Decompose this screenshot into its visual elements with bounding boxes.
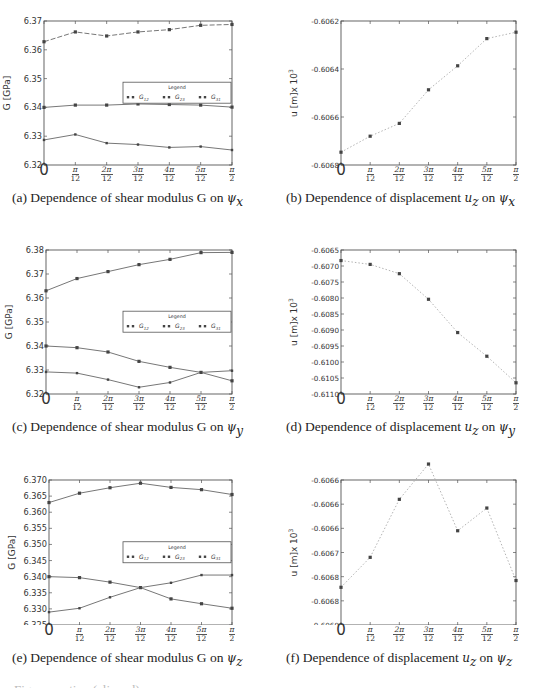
y-tick-label: -0.6067	[311, 549, 339, 558]
clipped-figure-caption: Figure caption (clipped)	[0, 683, 544, 688]
data-point	[168, 258, 171, 261]
y-tick-label: -0.6075	[311, 278, 339, 287]
x-tick-label: 3π12	[417, 395, 441, 412]
y-tick-label: -0.6062	[311, 17, 339, 26]
data-point	[485, 355, 488, 358]
y-tick-label: -0.6068	[311, 597, 339, 606]
x-tick-label: π2	[504, 166, 528, 183]
caption-b: (b) Dependence of displacement uz on ψx	[286, 190, 515, 209]
data-point	[106, 350, 109, 353]
y-axis-label: u [m]x 103	[287, 298, 299, 346]
data-point	[138, 386, 140, 388]
x-tick-label: π12	[358, 395, 382, 412]
caption-c: (c) Dependence of shear modulus G on ψy	[12, 419, 243, 438]
data-point	[339, 259, 342, 262]
data-point	[74, 133, 76, 135]
x-tick-label: 4π12	[446, 395, 470, 412]
data-point	[398, 272, 401, 275]
legend: LegendG12G23G31	[123, 542, 231, 563]
data-point	[514, 381, 517, 384]
chart-c: 6.326.336.346.356.366.376.38G [GPa]Legen…	[0, 220, 272, 400]
data-point	[75, 277, 78, 280]
psi-symbol: ψ	[227, 191, 236, 205]
x-tick-label: 4π12	[446, 166, 470, 183]
data-point	[427, 462, 430, 465]
y-tick-label: 6.355	[24, 523, 47, 533]
data-point	[199, 145, 201, 147]
data-point	[107, 378, 109, 380]
data-point	[108, 486, 111, 489]
data-point	[44, 289, 47, 292]
legend: LegendG12G23G31	[123, 311, 231, 332]
y-axis-label: G [GPa]	[2, 76, 12, 110]
y-tick-label: -0.6066	[311, 113, 339, 122]
x-tick-label: π12	[358, 626, 382, 643]
y-tick-label: -0.6066	[311, 524, 339, 533]
plot-area	[341, 21, 516, 165]
x-tick-label: 2π12	[387, 166, 411, 183]
data-point	[42, 40, 45, 43]
u-symbol: u	[462, 651, 470, 665]
data-point	[169, 381, 171, 383]
data-point	[108, 581, 111, 584]
x-tick-label: 2π12	[387, 626, 411, 643]
caption-a: (a) Dependence of shear modulus G on ψx	[12, 190, 243, 209]
data-point	[427, 88, 430, 91]
chart-b: -0.6068-0.6066-0.6064-0.6062u [m]x 103	[272, 0, 544, 180]
x-tick-label: 3π12	[417, 626, 441, 643]
psi-symbol: ψ	[499, 191, 508, 205]
caption-e-text: (e) Dependence of shear modulus G on	[12, 650, 227, 665]
y-tick-label: 6.35	[24, 74, 42, 84]
psi-symbol: ψ	[227, 420, 236, 434]
psi-sub: x	[236, 195, 243, 209]
data-point	[200, 488, 203, 491]
data-point	[137, 143, 139, 145]
data-point	[369, 135, 372, 138]
y-tick-label: 6.37	[26, 269, 44, 279]
y-tick-label: 6.37	[24, 16, 42, 26]
chart-c-svg: 6.326.336.346.356.366.376.38G [GPa]Legen…	[0, 220, 272, 400]
data-point	[514, 579, 517, 582]
data-point	[200, 371, 202, 373]
y-tick-label: -0.6070	[311, 262, 339, 271]
caption-e: (e) Dependence of shear modulus G on ψz	[12, 650, 243, 669]
chart-f-svg: -0.6069-0.6068-0.6068-0.6067-0.6066-0.60…	[272, 440, 544, 625]
y-tick-label: -0.6068	[311, 573, 339, 582]
caption-f-text: (f) Dependence of displacement	[286, 650, 462, 665]
caption-b-mid: on	[478, 190, 498, 205]
data-point	[485, 37, 488, 40]
data-point	[339, 586, 342, 589]
y-tick-label: 6.365	[24, 491, 47, 501]
y-axis-label: u [m]x 103	[287, 528, 299, 576]
y-tick-label: 6.350	[24, 539, 47, 549]
y-tick-label: -0.6105	[311, 374, 339, 383]
data-point	[44, 344, 47, 347]
caption-c-text: (c) Dependence of shear modulus G on	[12, 419, 227, 434]
y-axis-label: u [m]x 103	[287, 69, 299, 117]
x-tick-label: 2π12	[387, 395, 411, 412]
y-axis-label: G [GPa]	[7, 535, 17, 569]
y-tick-label: 6.360	[24, 507, 47, 517]
caption-b-text: (b) Dependence of displacement	[286, 190, 464, 205]
data-point	[136, 30, 139, 33]
y-tick-label: -0.6085	[311, 310, 339, 319]
psi-sub: y	[236, 424, 243, 438]
y-tick-label: -0.6064	[311, 65, 339, 74]
y-tick-label: -0.6066	[311, 476, 339, 485]
xticks-f: 0π122π123π124π125π12π2	[0, 626, 544, 644]
chart-a-svg: 6.326.336.346.356.366.37G [GPa]LegendG12…	[0, 0, 272, 180]
data-point	[456, 529, 459, 532]
y-axis-label: G [GPa]	[4, 305, 14, 339]
data-point	[105, 34, 108, 37]
y-tick-label: -0.6080	[311, 294, 339, 303]
data-point	[47, 501, 50, 504]
data-point	[47, 575, 50, 578]
data-point	[78, 576, 81, 579]
u-symbol: u	[464, 420, 472, 434]
data-point	[456, 331, 459, 334]
data-point	[231, 149, 233, 151]
psi-sub: y	[508, 424, 515, 438]
chart-b-svg: -0.6068-0.6066-0.6064-0.6062u [m]x 103	[272, 0, 544, 180]
data-point	[48, 611, 50, 613]
x-tick-label: 5π12	[475, 166, 499, 183]
